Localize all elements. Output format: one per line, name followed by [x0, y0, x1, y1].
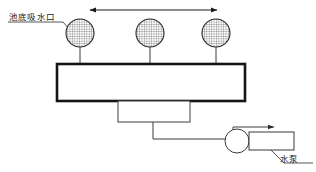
pump-circle-icon[interactable] [225, 129, 249, 153]
diagram-canvas: 池底吸水口 水泵 [0, 0, 316, 172]
hatched-circle-icon[interactable] [66, 19, 94, 47]
suction-port-leader-group [8, 22, 70, 30]
manifold-box [118, 101, 190, 122]
schematic-diagram: 池底吸水口 水泵 [0, 0, 316, 172]
suction-pipe [153, 122, 225, 139]
port-stems-group [80, 46, 216, 64]
suction-piping-group [153, 122, 225, 139]
suction-ports-group [66, 19, 230, 47]
water-pump-label: 水泵 [280, 154, 298, 164]
suction-port-label: 池底吸水口 [9, 12, 55, 22]
pump-group[interactable] [225, 129, 294, 153]
hatched-circle-icon[interactable] [202, 19, 230, 47]
pump-motor-box[interactable] [249, 132, 294, 150]
tank-body [57, 64, 245, 101]
hatched-circle-icon[interactable] [136, 19, 164, 47]
